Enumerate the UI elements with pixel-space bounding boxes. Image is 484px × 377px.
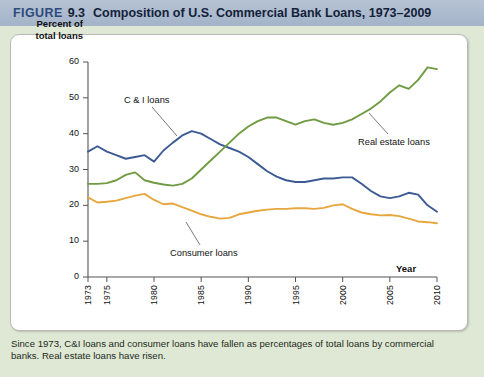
y-tick-marks — [83, 62, 88, 277]
annotation-real-estate-loans: Real estate loans — [358, 137, 430, 147]
y-tick-label: 50 — [61, 92, 79, 102]
x-tick-label: 1980 — [149, 285, 159, 305]
x-tick-label: 1985 — [196, 285, 206, 305]
x-tick-label: 2005 — [385, 285, 395, 305]
annotation-ci-loans: C & I loans — [124, 95, 169, 105]
x-tick-label: 1990 — [243, 285, 253, 305]
y-tick-label: 0 — [61, 271, 79, 281]
x-tick-label: 2000 — [338, 285, 348, 305]
x-tick-label: 2010 — [432, 285, 442, 305]
y-tick-label: 10 — [61, 235, 79, 245]
figure-caption: Since 1973, C&I loans and consumer loans… — [11, 338, 461, 363]
figure-container: FIGURE 9.3 Composition of U.S. Commercia… — [0, 0, 484, 377]
y-tick-label: 20 — [61, 199, 79, 209]
annotation-leader-lines — [152, 107, 388, 245]
y-tick-label: 60 — [61, 56, 79, 66]
x-tick-label: 1995 — [291, 285, 301, 305]
y-tick-label: 30 — [61, 164, 79, 174]
y-tick-label: 40 — [61, 128, 79, 138]
x-tick-label: 1973 — [83, 285, 93, 305]
x-tick-label: 1975 — [102, 285, 112, 305]
annotation-consumer-loans: Consumer loans — [170, 248, 238, 258]
series-line — [88, 194, 437, 223]
x-tick-marks — [88, 277, 437, 282]
